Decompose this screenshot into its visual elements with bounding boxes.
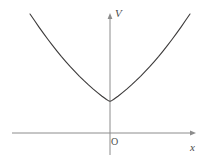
x-axis-arrow-icon [190, 131, 196, 136]
v-axis-arrow-icon [108, 13, 113, 19]
x-axis-label: x [190, 142, 195, 153]
v-axis-label: V [115, 8, 122, 19]
origin-label: O [111, 137, 118, 147]
plot-canvas [0, 0, 210, 164]
physics-parabola-figure: V x O [0, 0, 210, 164]
